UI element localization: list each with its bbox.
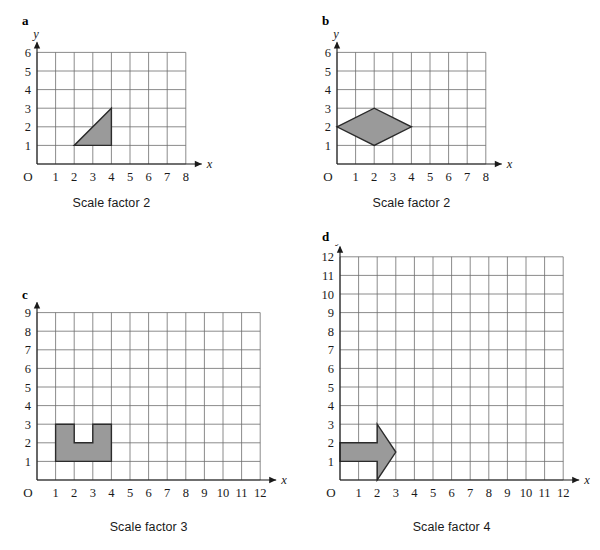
x-tick-label: 2 (371, 170, 377, 184)
panel-d-caption: Scale factor 4 (300, 520, 600, 534)
x-tick-label: 4 (108, 486, 115, 500)
panel-b: b 12345678123456Oxy Scale factor 2 (300, 0, 600, 230)
x-axis-label: x (583, 473, 590, 487)
y-tick-label: 2 (325, 120, 331, 134)
panel-a: a 12345678123456Oxy Scale factor 2 (0, 0, 300, 230)
x-tick-label: 6 (448, 486, 454, 500)
y-tick-label: 3 (25, 102, 31, 116)
y-axis-arrow-icon (34, 302, 40, 309)
x-tick-label: 6 (445, 170, 451, 184)
y-tick-label: 4 (328, 399, 335, 413)
shape-arrow (340, 424, 396, 480)
x-tick-label: 2 (71, 170, 77, 184)
y-tick-label: 12 (322, 250, 335, 264)
panel-b-plot: 12345678123456Oxy (300, 14, 600, 204)
y-tick-label: 3 (328, 418, 334, 432)
x-tick-label: 3 (90, 486, 96, 500)
x-tick-label: 5 (127, 170, 133, 184)
x-axis-label: x (206, 157, 213, 171)
y-tick-label: 1 (25, 139, 31, 153)
y-tick-label: 3 (325, 102, 331, 116)
x-tick-label: 1 (52, 486, 58, 500)
origin-label: O (23, 485, 32, 500)
x-tick-label: 1 (352, 170, 358, 184)
x-axis-arrow-icon (269, 477, 276, 483)
x-tick-label: 12 (254, 486, 267, 500)
x-tick-label: 1 (355, 486, 361, 500)
x-tick-label: 6 (145, 486, 151, 500)
y-axis-arrow-icon (34, 41, 40, 48)
panel-c-letter: c (22, 288, 28, 301)
panel-b-caption: Scale factor 2 (300, 196, 523, 210)
x-axis-arrow-icon (495, 161, 502, 167)
y-axis-label: y (31, 27, 39, 41)
x-tick-label: 3 (393, 486, 399, 500)
panel-c-plot: 123456789101112123456789Oxy (0, 302, 300, 520)
y-tick-label: 1 (325, 139, 331, 153)
x-tick-label: 5 (430, 486, 436, 500)
panel-c-caption: Scale factor 3 (0, 520, 297, 534)
x-tick-label: 3 (90, 170, 96, 184)
origin-label: O (323, 169, 332, 184)
x-tick-label: 7 (164, 170, 170, 184)
x-axis-label: x (506, 157, 513, 171)
x-tick-label: 8 (486, 486, 492, 500)
x-tick-label: 8 (183, 170, 189, 184)
x-tick-label: 2 (71, 486, 77, 500)
y-tick-label: 2 (25, 436, 31, 450)
x-tick-label: 4 (411, 486, 418, 500)
y-tick-label: 1 (328, 455, 334, 469)
x-tick-label: 10 (520, 486, 533, 500)
x-tick-label: 9 (201, 486, 207, 500)
y-tick-label: 5 (325, 65, 331, 79)
y-tick-label: 4 (25, 83, 32, 97)
y-tick-label: 6 (325, 46, 331, 60)
y-axis-arrow-icon (334, 41, 340, 48)
x-tick-label: 8 (183, 486, 189, 500)
x-tick-label: 8 (483, 170, 489, 184)
x-axis-label: x (280, 473, 287, 487)
panel-d-letter: d (322, 230, 329, 243)
origin-label: O (326, 485, 335, 500)
panel-a-caption: Scale factor 2 (0, 196, 223, 210)
y-tick-label: 8 (25, 325, 31, 339)
y-axis-label: y (334, 244, 342, 246)
x-tick-label: 9 (504, 486, 510, 500)
x-tick-label: 7 (464, 170, 470, 184)
y-tick-label: 6 (25, 362, 31, 376)
y-tick-label: 6 (328, 362, 334, 376)
y-tick-label: 5 (25, 381, 31, 395)
x-tick-label: 7 (164, 486, 170, 500)
x-tick-label: 10 (217, 486, 230, 500)
x-axis-arrow-icon (195, 161, 202, 167)
x-tick-label: 11 (236, 486, 248, 500)
y-tick-label: 7 (328, 343, 334, 357)
panel-d-plot: 123456789101112123456789101112Oxy (300, 244, 600, 520)
panel-c: c 123456789101112123456789Oxy Scale fact… (0, 288, 300, 550)
y-tick-label: 2 (25, 120, 31, 134)
y-tick-label: 11 (322, 269, 334, 283)
y-axis-label: y (331, 27, 339, 41)
shape-u-shape (56, 424, 112, 461)
y-tick-label: 4 (25, 399, 32, 413)
y-tick-label: 6 (25, 46, 31, 60)
y-tick-label: 7 (25, 343, 31, 357)
y-tick-label: 4 (325, 83, 332, 97)
y-tick-label: 5 (328, 381, 334, 395)
y-tick-label: 2 (328, 436, 334, 450)
origin-label: O (23, 169, 32, 184)
panel-a-plot: 12345678123456Oxy (0, 14, 300, 204)
x-tick-label: 4 (408, 170, 415, 184)
x-tick-label: 4 (108, 170, 115, 184)
x-tick-label: 12 (557, 486, 570, 500)
panel-d: d 123456789101112123456789101112Oxy Scal… (300, 230, 600, 550)
y-tick-label: 5 (25, 65, 31, 79)
x-tick-label: 11 (539, 486, 551, 500)
y-tick-label: 9 (328, 306, 334, 320)
y-axis-arrow-icon (337, 246, 343, 253)
x-tick-label: 5 (427, 170, 433, 184)
y-tick-label: 9 (25, 306, 31, 320)
x-tick-label: 1 (52, 170, 58, 184)
y-tick-label: 1 (25, 455, 31, 469)
x-axis-arrow-icon (572, 477, 579, 483)
